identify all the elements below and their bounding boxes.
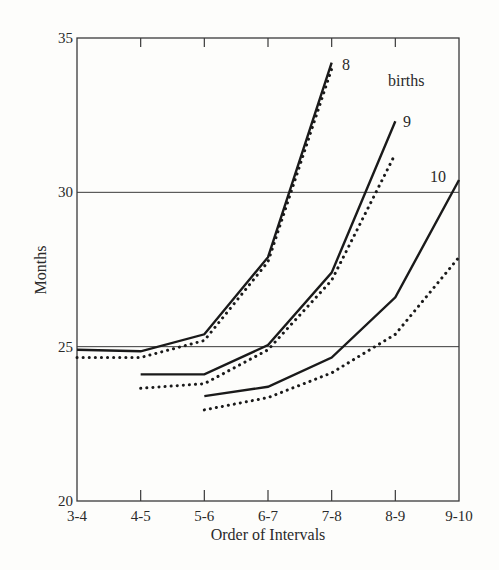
x-tick-label: 7-8 [322, 508, 342, 524]
x-axis-title: Order of Intervals [211, 526, 326, 543]
series-line-8-births-solid- [77, 63, 332, 352]
x-tick-label: 9-10 [445, 508, 473, 524]
x-tick-label: 5-6 [194, 508, 214, 524]
series-label-9: 9 [403, 113, 411, 130]
series-label-8: 8 [342, 56, 350, 73]
y-tick-label: 20 [58, 493, 73, 509]
line-chart: 20253035 3-44-55-66-77-88-99-10 Months O… [0, 0, 499, 570]
series-line-9-births-dotted- [141, 154, 396, 388]
data-series [77, 63, 459, 410]
series-line-9-births-solid- [141, 121, 396, 374]
plot-border [77, 38, 459, 501]
gridlines [77, 192, 459, 346]
series-line-8-births-dotted- [77, 69, 332, 358]
x-tick-label: 3-4 [67, 508, 87, 524]
x-tick-label: 4-5 [131, 508, 151, 524]
y-tick-label: 35 [58, 30, 73, 46]
x-tick-label: 8-9 [385, 508, 405, 524]
births-label: births [388, 72, 424, 89]
y-tick-labels: 20253035 [58, 30, 73, 509]
y-tick-label: 25 [58, 339, 73, 355]
y-tick-label: 30 [58, 184, 73, 200]
x-tick-labels: 3-44-55-66-77-88-99-10 [67, 508, 473, 524]
y-axis-title: Months [32, 246, 49, 295]
plot-frame [77, 38, 459, 501]
x-tick-label: 6-7 [258, 508, 278, 524]
axis-ticks [141, 38, 396, 501]
series-label-10: 10 [430, 168, 446, 185]
